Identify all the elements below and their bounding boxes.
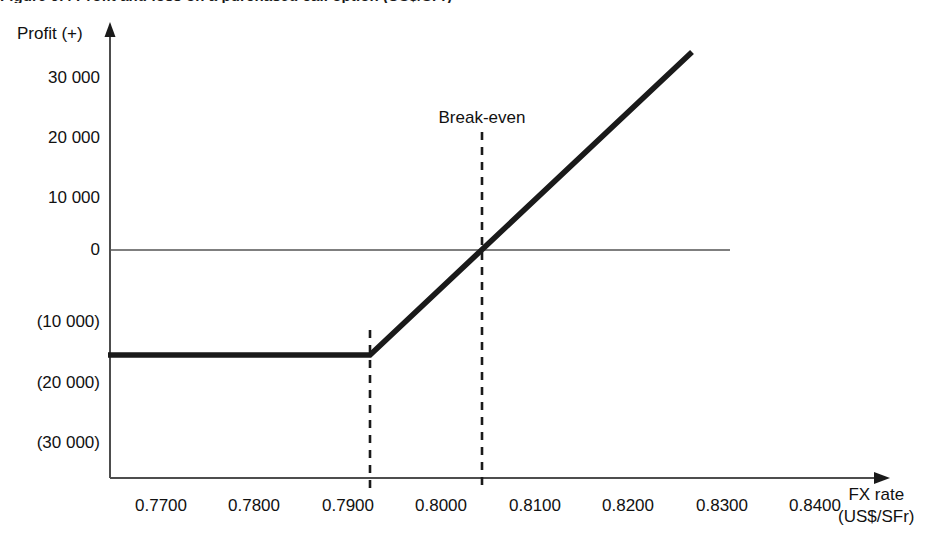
y-tick-label-30000: 30 000 — [18, 68, 100, 88]
x-tick-label-0-8200: 0.8200 — [602, 496, 654, 516]
x-tick-label-0-7800: 0.7800 — [228, 496, 280, 516]
y-axis-title: Profit (+) — [17, 24, 83, 44]
x-tick-label-0-8300: 0.8300 — [696, 496, 748, 516]
chart-figure: Figure 9.4 Profit and loss on a purchase… — [0, 0, 932, 552]
x-tick-label-0-7700: 0.7700 — [135, 496, 187, 516]
payoff-line — [108, 52, 692, 355]
x-axis-title-units: (US$/SFr) — [838, 506, 915, 528]
y-tick-label-neg30000: (30 000) — [18, 433, 100, 453]
x-axis — [110, 472, 890, 484]
x-axis-arrowhead — [874, 472, 890, 484]
x-tick-label-0-8100: 0.8100 — [509, 496, 561, 516]
x-axis-title-main: FX rate — [838, 484, 915, 506]
x-tick-label-0-7900: 0.7900 — [322, 496, 374, 516]
y-tick-label-20000: 20 000 — [18, 128, 100, 148]
x-axis-title: FX rate (US$/SFr) — [838, 484, 915, 528]
x-tick-label-0-8400: 0.8400 — [789, 496, 841, 516]
y-tick-label-10000: 10 000 — [18, 188, 100, 208]
chart-canvas — [0, 0, 932, 552]
y-tick-label-0: 0 — [18, 240, 100, 260]
y-axis-arrowhead — [105, 22, 116, 37]
y-tick-label-neg20000: (20 000) — [18, 373, 100, 393]
break-even-annotation-label: Break-even — [439, 108, 526, 128]
x-tick-label-0-8000: 0.8000 — [415, 496, 467, 516]
y-tick-label-neg10000: (10 000) — [18, 312, 100, 332]
